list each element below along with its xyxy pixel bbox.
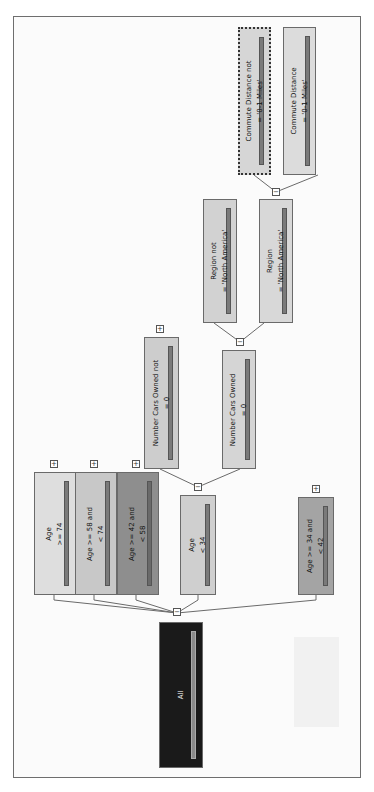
node-label: Commute Distance not= '0-1 Miles' (244, 61, 266, 142)
node-label: Age< 34 (187, 537, 209, 554)
tree-node-age-34-42[interactable]: Age >= 34 and< 42 (298, 497, 334, 595)
node-label: Age>= 74 (44, 522, 66, 545)
decision-tree-viewer[interactable]: All Age>= 74 Age >= 58 and< 74 Age >= 42… (13, 16, 361, 778)
expand-toggle-cars-not-0[interactable] (156, 325, 164, 333)
expand-toggle-age-ge-74[interactable] (50, 460, 58, 468)
tree-node-cars-0[interactable]: Number Cars Owned= 0 (222, 350, 256, 469)
collapse-toggle-region-na[interactable] (272, 188, 280, 196)
node-label: Number Cars Owned not= 0 (151, 360, 173, 446)
node-label: Age >= 34 and< 42 (305, 519, 327, 573)
expand-toggle-age-58-74[interactable] (90, 460, 98, 468)
expand-toggle-age-34-42[interactable] (312, 485, 320, 493)
node-histogram-bar (191, 631, 196, 759)
tree-node-age-58-74[interactable]: Age >= 58 and< 74 (75, 472, 117, 595)
tree-node-region-na[interactable]: Region= 'North America' (259, 199, 293, 323)
tree-node-cars-not-0[interactable]: Number Cars Owned not= 0 (144, 337, 179, 469)
node-label: Number Cars Owned= 0 (228, 373, 250, 446)
tree-node-region-not-na[interactable]: Region not= 'North America' (203, 199, 237, 323)
tree-node-age-ge-74[interactable]: Age>= 74 (34, 472, 76, 595)
node-label: Age >= 42 and< 58 (127, 506, 149, 560)
tree-node-commute-not-0-1[interactable]: Commute Distance not= '0-1 Miles' (238, 27, 271, 175)
tree-node-age-lt-34[interactable]: Age< 34 (180, 495, 216, 595)
node-label: Region= 'North America' (265, 230, 287, 293)
tree-node-all[interactable]: All (159, 622, 203, 768)
collapse-toggle-age-lt-34[interactable] (194, 483, 202, 491)
tree-node-commute-0-1[interactable]: Commute Distance= '0-1 Miles' (283, 27, 316, 175)
node-label: Age >= 58 and< 74 (85, 506, 107, 560)
collapse-toggle-cars-0[interactable] (236, 338, 244, 346)
node-label: Region not= 'North America' (209, 230, 231, 293)
root-collapse-toggle[interactable] (173, 608, 181, 616)
tree-node-age-42-58[interactable]: Age >= 42 and< 58 (117, 472, 159, 595)
expand-toggle-age-42-58[interactable] (132, 460, 140, 468)
node-label: All (176, 691, 187, 700)
node-label: Commute Distance= '0-1 Miles' (289, 67, 311, 134)
